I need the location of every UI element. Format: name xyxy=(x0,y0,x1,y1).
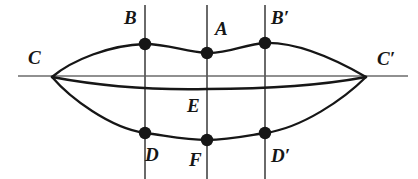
diagram-canvas xyxy=(0,0,418,179)
vertex-dots-group xyxy=(139,37,271,146)
label-F: F xyxy=(189,150,202,169)
median-chord-curve-through-E xyxy=(52,77,366,89)
geometry-figure: CBAB′C′EDFD′ xyxy=(0,0,418,179)
label-C: C xyxy=(28,48,41,67)
vertex-dot-B-prime xyxy=(259,37,271,49)
vertex-dot-F xyxy=(201,134,213,146)
label-C-prime: C′ xyxy=(377,49,395,68)
vertex-dot-D-prime xyxy=(259,127,271,139)
vertex-dot-B xyxy=(139,38,151,50)
label-D-prime: D′ xyxy=(271,146,290,165)
lower-arc-C-D-F-D-prime-C-prime xyxy=(52,77,366,140)
label-E: E xyxy=(187,96,200,115)
label-A: A xyxy=(215,19,228,38)
label-B: B xyxy=(124,8,137,27)
label-D: D xyxy=(145,145,159,164)
vertical-lines-group xyxy=(145,5,265,179)
vertex-dot-D xyxy=(139,127,151,139)
vertex-dot-A xyxy=(201,47,213,59)
label-B-prime: B′ xyxy=(271,8,289,27)
